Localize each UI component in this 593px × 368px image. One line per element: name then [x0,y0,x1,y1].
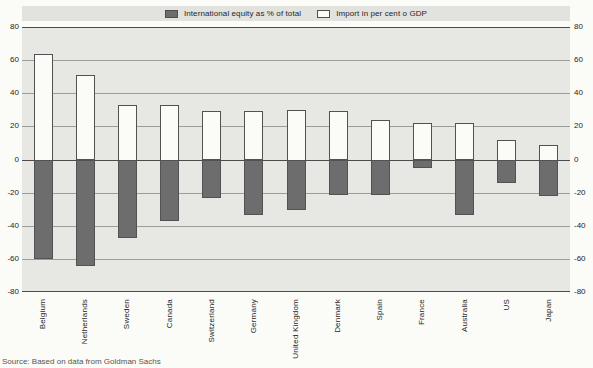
bar-equity-japan [539,160,558,196]
gridline--40 [22,226,570,227]
bar-equity-sweden [118,160,137,238]
chart-legend: International equity as % of total Impor… [22,6,570,21]
bar-import-australia [455,123,474,160]
bar-equity-denmark [329,160,348,195]
y-axis-label-left: 20 [0,122,19,130]
bar-equity-germany [244,160,263,215]
x-axis-label-belgium: Belgium [38,299,47,329]
y-axis-label-right: -80 [574,288,593,296]
y-axis-label-left: -40 [0,222,19,230]
legend-label-import-gdp: Import in per cent o GDP [336,9,427,18]
gridline--80 [22,291,570,292]
legend-item-import-gdp: Import in per cent o GDP [317,9,427,18]
bar-equity-australia [455,160,474,215]
bar-import-spain [371,120,390,161]
bar-equity-us [497,160,516,183]
y-axis-label-right: 20 [574,122,593,130]
equity-series-swatch-icon [165,10,178,18]
x-axis-label-france: France [417,299,426,325]
gridline-60 [22,60,570,61]
bar-equity-canada [160,160,179,221]
x-axis-label-switzerland: Switzerland [207,299,216,343]
x-axis-label-australia: Australia [460,299,469,332]
y-axis-label-right: 40 [574,89,593,97]
y-axis-label-left: 40 [0,89,19,97]
x-axis-label-denmark: Denmark [333,299,342,333]
y-axis-label-right: -40 [574,222,593,230]
bar-import-denmark [329,111,348,160]
y-axis-label-left: -60 [0,255,19,263]
y-axis-label-left: 80 [0,23,19,31]
bar-equity-switzerland [202,160,221,198]
y-axis-label-left: -20 [0,189,19,197]
y-axis-label-left: 0 [0,156,19,164]
bar-import-belgium [34,54,53,161]
x-axis-label-japan: Japan [544,299,553,322]
bar-chart-figure: International equity as % of total Impor… [0,0,593,368]
gridline-80 [22,27,570,28]
legend-item-international-equity: International equity as % of total [165,9,301,18]
y-axis-label-right: 60 [574,56,593,64]
bar-import-us [497,140,516,161]
bar-import-switzerland [202,111,221,160]
y-axis-label-left: 60 [0,56,19,64]
bar-import-germany [244,111,263,160]
y-axis-label-left: -80 [0,288,19,296]
x-axis-label-netherlands: Netherlands [80,299,89,344]
source-note: Source: Based on data from Goldman Sachs [2,357,161,366]
import-series-swatch-icon [317,10,330,18]
bar-equity-united-kingdom [287,160,306,210]
legend-label-international-equity: International equity as % of total [184,9,301,18]
bar-import-japan [539,145,558,161]
bar-import-france [413,123,432,160]
bar-equity-france [413,160,432,168]
y-axis-label-right: -20 [574,189,593,197]
y-axis-label-right: -60 [574,255,593,263]
plot-area [22,27,570,292]
gridline--60 [22,259,570,260]
bar-equity-netherlands [76,160,95,266]
x-axis-label-sweden: Sweden [122,299,131,329]
bar-import-united-kingdom [287,110,306,161]
bar-equity-spain [371,160,390,195]
x-axis-label-germany: Germany [249,299,258,333]
gridline-40 [22,93,570,94]
y-axis-label-right: 80 [574,23,593,31]
bar-import-netherlands [76,75,95,160]
y-axis-label-right: 0 [574,156,593,164]
x-axis-label-spain: Spain [375,299,384,320]
bar-equity-belgium [34,160,53,259]
x-axis-label-us: US [502,299,511,311]
x-axis-label-united-kingdom: United Kingdom [291,299,300,359]
bar-import-canada [160,105,179,161]
x-axis-label-canada: Canada [165,299,174,328]
bar-import-sweden [118,105,137,161]
